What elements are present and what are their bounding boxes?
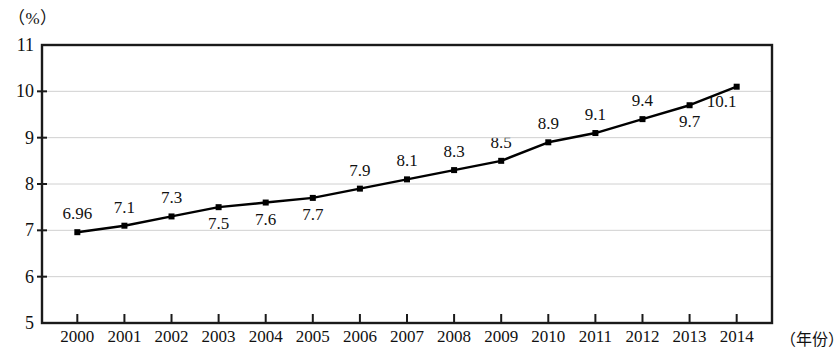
data-point-marker [263, 200, 269, 206]
data-point-marker [216, 204, 222, 210]
x-axis-ticks [77, 314, 736, 323]
data-point-marker [592, 130, 598, 136]
data-point-marker [687, 102, 693, 108]
data-point-marker [121, 223, 127, 229]
series-polyline [77, 87, 736, 232]
data-line [77, 87, 736, 232]
data-markers [74, 84, 739, 235]
data-point-marker [169, 213, 175, 219]
data-point-marker [639, 116, 645, 122]
data-point-marker [404, 176, 410, 182]
data-point-marker [498, 158, 504, 164]
data-point-marker [310, 195, 316, 201]
line-chart: （%） （年份） 567891011 200020012002200320042… [0, 0, 839, 355]
gridlines [42, 91, 772, 276]
data-point-marker [357, 186, 363, 192]
data-point-marker [734, 84, 740, 90]
data-point-marker [451, 167, 457, 173]
data-point-marker [74, 229, 80, 235]
data-point-marker [545, 139, 551, 145]
plot-area [0, 0, 839, 355]
